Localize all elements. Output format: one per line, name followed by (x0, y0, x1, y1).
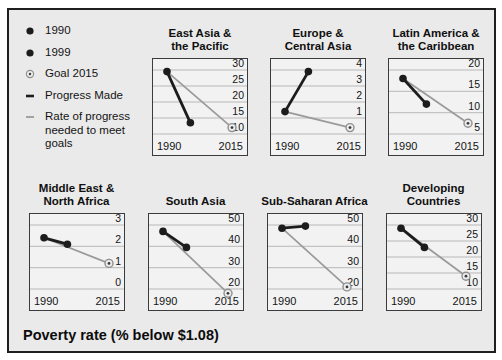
filled-dot-icon (25, 46, 38, 58)
svg-text:0: 0 (115, 276, 121, 288)
legend-label: Goal 2015 (45, 67, 98, 81)
legend-item-1999: 1999 (25, 46, 141, 60)
legend-label: 1990 (45, 24, 71, 38)
svg-text:25: 25 (466, 228, 478, 240)
svg-text:1990: 1990 (275, 140, 299, 152)
figure-caption: Poverty rate (% below $1.08) (23, 327, 494, 343)
svg-text:5: 5 (474, 121, 480, 133)
chart-title: Europe & Central Asia (285, 16, 352, 58)
svg-text:15: 15 (232, 105, 244, 117)
svg-text:2015: 2015 (455, 140, 479, 152)
svg-text:30: 30 (228, 255, 240, 267)
goal-target-icon (25, 67, 38, 79)
chart-developing-countries: Developing Countries 302520151019902015 (374, 167, 493, 311)
chart-title: Sub-Saharan Africa (261, 167, 367, 213)
svg-text:20: 20 (466, 244, 478, 256)
svg-text:2015: 2015 (452, 295, 476, 307)
chart-plot: 5040302019902015 (148, 213, 244, 311)
svg-text:40: 40 (228, 233, 240, 245)
svg-text:1: 1 (356, 105, 362, 117)
bottom-row: Middle East & North Africa 321019902015 … (9, 159, 494, 311)
svg-text:1990: 1990 (391, 295, 415, 307)
gray-dash-icon (25, 110, 38, 122)
svg-text:40: 40 (347, 233, 359, 245)
svg-text:15: 15 (466, 260, 478, 272)
chart-plot: 302520151019902015 (386, 213, 482, 311)
poverty-figure: 1990 1999 Goal 2015 Progress Made (7, 8, 496, 353)
chart-middle-east-north-africa: Middle East & North Africa 321019902015 (17, 167, 136, 311)
svg-text:3: 3 (356, 73, 362, 85)
svg-text:2015: 2015 (95, 295, 119, 307)
svg-text:20: 20 (232, 89, 244, 101)
chart-title: East Asia & the Pacific (169, 16, 232, 58)
black-dash-icon (25, 89, 38, 101)
svg-text:50: 50 (347, 213, 359, 224)
filled-dot-icon (25, 24, 38, 36)
chart-title: Latin America & the Caribbean (392, 16, 479, 58)
top-row: 1990 1999 Goal 2015 Progress Made (9, 10, 494, 159)
svg-text:15: 15 (468, 78, 480, 90)
svg-text:1990: 1990 (157, 140, 181, 152)
svg-text:30: 30 (466, 213, 478, 224)
chart-title: Middle East & North Africa (39, 167, 114, 213)
chart-sub-saharan-africa: Sub-Saharan Africa 5040302019902015 (255, 167, 374, 311)
svg-text:1990: 1990 (153, 295, 177, 307)
svg-text:1990: 1990 (272, 295, 296, 307)
svg-text:2: 2 (115, 233, 121, 245)
chart-east-asia-pacific: East Asia & the Pacific 3025201510199020… (141, 16, 259, 159)
svg-text:1990: 1990 (393, 140, 417, 152)
svg-text:20: 20 (468, 58, 480, 69)
chart-europe-central-asia: Europe & Central Asia 432119902015 (259, 16, 377, 159)
svg-text:20: 20 (228, 276, 240, 288)
legend-item-rate-needed: Rate of progress needed to meet goals (25, 110, 141, 151)
chart-title: Developing Countries (403, 167, 465, 213)
svg-text:1990: 1990 (34, 295, 58, 307)
svg-text:10: 10 (468, 100, 480, 112)
svg-text:25: 25 (232, 73, 244, 85)
legend-item-goal-2015: Goal 2015 (25, 67, 141, 81)
legend-label: 1999 (45, 46, 71, 60)
chart-latin-america-caribbean: Latin America & the Caribbean 2015105199… (377, 16, 495, 159)
legend-item-progress-made: Progress Made (25, 89, 141, 103)
svg-text:50: 50 (228, 213, 240, 224)
chart-title: South Asia (166, 167, 226, 213)
legend: 1990 1999 Goal 2015 Progress Made (15, 16, 141, 159)
svg-text:4: 4 (356, 58, 362, 69)
svg-text:2015: 2015 (219, 140, 243, 152)
chart-plot: 5040302019902015 (267, 213, 363, 311)
svg-text:2015: 2015 (337, 140, 361, 152)
chart-plot: 201510519902015 (388, 58, 484, 156)
svg-text:3: 3 (115, 213, 121, 224)
chart-plot: 321019902015 (29, 213, 125, 311)
svg-text:1: 1 (115, 255, 121, 267)
legend-item-1990: 1990 (25, 24, 141, 38)
chart-plot: 432119902015 (270, 58, 366, 156)
svg-text:30: 30 (347, 255, 359, 267)
svg-text:2015: 2015 (333, 295, 357, 307)
svg-text:30: 30 (232, 58, 244, 69)
legend-label: Rate of progress needed to meet goals (45, 110, 141, 151)
chart-south-asia: South Asia 5040302019902015 (136, 167, 255, 311)
svg-text:2: 2 (356, 89, 362, 101)
chart-plot: 302520151019902015 (152, 58, 248, 156)
legend-label: Progress Made (45, 89, 123, 103)
